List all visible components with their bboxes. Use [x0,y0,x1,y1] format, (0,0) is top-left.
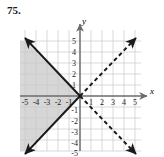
x-axis-label: x [149,86,154,96]
y-tick-label: -1 [71,106,78,115]
y-tick-label: 4 [72,48,76,57]
y-tick-label: -4 [71,139,78,148]
y-tick-label: 5 [72,37,76,46]
x-tick-label: 2 [100,98,104,107]
y-tick-label: 2 [72,70,76,79]
x-tick-label: -2 [55,98,62,107]
y-axis-label: y [81,16,86,26]
x-tick-label: -4 [33,98,40,107]
x-tick-label: -3 [44,98,51,107]
coordinate-plane-graph: x y -5 -4 -3 -2 -1 1 2 3 4 5 5 4 3 2 1 -… [0,0,164,157]
x-tick-label: 5 [133,98,137,107]
y-tick-label: -5 [71,149,78,157]
y-tick-label: 3 [72,59,76,68]
x-tick-label: -5 [22,98,29,107]
y-tick-label: 1 [72,81,76,90]
x-tick-label: 4 [122,98,126,107]
x-tick-label: 3 [111,98,115,107]
figure-container: 75. [0,0,164,157]
y-tick-label: -3 [71,128,78,137]
y-tick-label: -2 [71,117,78,126]
x-tick-label: 1 [89,98,93,107]
